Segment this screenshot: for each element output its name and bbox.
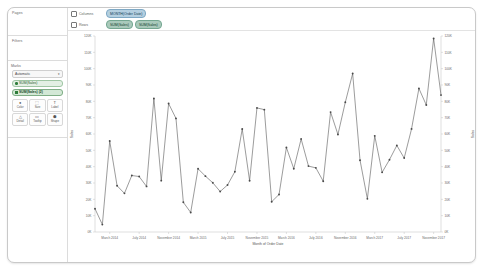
data-point-marker[interactable] bbox=[160, 180, 162, 182]
pages-shelf[interactable]: Pages bbox=[8, 8, 67, 36]
data-point-marker[interactable] bbox=[433, 38, 435, 40]
y-axis-tick-label: 20K bbox=[86, 198, 93, 202]
data-point-marker[interactable] bbox=[168, 103, 170, 105]
data-point-marker[interactable] bbox=[271, 201, 273, 203]
data-point-marker[interactable] bbox=[138, 176, 140, 178]
data-point-marker[interactable] bbox=[263, 109, 265, 111]
x-axis-tick-label: November 2017 bbox=[422, 236, 445, 240]
data-point-marker[interactable] bbox=[175, 117, 177, 119]
data-point-marker[interactable] bbox=[278, 194, 280, 196]
y-axis-tick-label-right: 50K bbox=[445, 149, 452, 153]
y-axis-tick-label-right: 10K bbox=[445, 214, 452, 218]
data-point-marker[interactable] bbox=[389, 159, 391, 161]
data-point-marker[interactable] bbox=[359, 159, 361, 161]
y-axis-tick-label-right: 40K bbox=[445, 165, 452, 169]
data-point-marker[interactable] bbox=[101, 224, 103, 226]
data-point-marker[interactable] bbox=[249, 180, 251, 182]
data-point-marker[interactable] bbox=[219, 191, 221, 193]
chevron-down-icon: ▾ bbox=[58, 72, 60, 76]
rows-label: Rows bbox=[79, 23, 88, 27]
mark-type-dropdown[interactable]: Automatic ▾ bbox=[12, 70, 63, 78]
y-axis-tick-label: 0K bbox=[88, 230, 93, 234]
data-point-marker[interactable] bbox=[182, 201, 184, 203]
data-point-marker[interactable] bbox=[403, 157, 405, 159]
data-point-marker[interactable] bbox=[308, 165, 310, 167]
marks-pill-sum-sales[interactable]: SUM(Sales) bbox=[12, 80, 63, 88]
worksheet-sidebar: Pages Filters Marks Automatic ▾ SUM(Sale… bbox=[8, 8, 68, 262]
rows-shelf[interactable]: Rows SUM(Sales) SUM(Sales) bbox=[68, 19, 475, 30]
marks-pill-sum-sales-2[interactable]: SUM(Sales) (2) bbox=[12, 89, 63, 97]
data-point-marker[interactable] bbox=[344, 101, 346, 103]
y-axis-tick-label: 60K bbox=[86, 132, 93, 136]
series-line-sum-sales bbox=[95, 39, 441, 225]
rows-pill-sum-sales-1[interactable]: SUM(Sales) bbox=[106, 20, 133, 29]
marks-button-label: Size bbox=[35, 105, 41, 109]
marks-button-label: Shape bbox=[51, 119, 59, 123]
data-point-marker[interactable] bbox=[440, 94, 442, 96]
y-axis-tick-label-right: 100K bbox=[445, 67, 453, 71]
data-point-marker[interactable] bbox=[322, 180, 324, 182]
data-point-marker[interactable] bbox=[131, 175, 133, 177]
y-axis-tick-label: 110K bbox=[84, 51, 92, 55]
rows-pill-sum-sales-2[interactable]: SUM(Sales) bbox=[135, 20, 162, 29]
filters-shelf[interactable]: Filters bbox=[8, 36, 67, 61]
data-point-marker[interactable] bbox=[94, 208, 96, 210]
data-point-marker[interactable] bbox=[418, 88, 420, 90]
marks-buttons-grid: ● Color ⬚ Size T Label △ Detail ▭ Tool bbox=[11, 98, 64, 127]
pill-label: SUM(Sales) bbox=[110, 23, 129, 27]
marks-shape-button[interactable]: ⬢ Shape bbox=[47, 113, 63, 126]
data-point-marker[interactable] bbox=[337, 134, 339, 136]
marks-tooltip-button[interactable]: ▭ Tooltip bbox=[29, 113, 45, 126]
data-point-marker[interactable] bbox=[234, 171, 236, 173]
data-point-marker[interactable] bbox=[109, 140, 111, 142]
x-axis-tick-label: March 2014 bbox=[101, 236, 118, 240]
data-point-marker[interactable] bbox=[116, 185, 118, 187]
data-point-marker[interactable] bbox=[190, 212, 192, 214]
data-point-marker[interactable] bbox=[300, 138, 302, 140]
x-axis-tick-label: March 2017 bbox=[366, 236, 383, 240]
x-axis-tick-label: March 2016 bbox=[278, 236, 295, 240]
data-point-marker[interactable] bbox=[315, 167, 317, 169]
y-axis-tick-label: 40K bbox=[86, 165, 93, 169]
data-point-marker[interactable] bbox=[285, 147, 287, 149]
columns-label: Columns bbox=[79, 12, 93, 16]
data-point-marker[interactable] bbox=[227, 184, 229, 186]
worksheet-main: Columns MONTH(Order Date) Rows SUM(Sales… bbox=[68, 8, 475, 262]
data-point-marker[interactable] bbox=[256, 107, 258, 109]
data-point-marker[interactable] bbox=[153, 97, 155, 99]
data-point-marker[interactable] bbox=[374, 135, 376, 137]
data-point-marker[interactable] bbox=[197, 168, 199, 170]
marks-color-button[interactable]: ● Color bbox=[12, 99, 28, 112]
marks-label-button[interactable]: T Label bbox=[47, 99, 63, 112]
measure-dot-icon bbox=[15, 82, 18, 85]
columns-pill-order-date[interactable]: MONTH(Order Date) bbox=[106, 9, 146, 18]
x-axis-tick-label: November 2015 bbox=[246, 236, 269, 240]
data-point-marker[interactable] bbox=[293, 168, 295, 170]
data-point-marker[interactable] bbox=[396, 145, 398, 147]
data-point-marker[interactable] bbox=[330, 111, 332, 113]
data-point-marker[interactable] bbox=[212, 182, 214, 184]
x-axis-title: Month of Order Date bbox=[253, 242, 284, 246]
columns-shelf-label-group: Columns bbox=[71, 11, 103, 17]
marks-card: Marks Automatic ▾ SUM(Sales) SUM(Sales) … bbox=[8, 61, 67, 138]
marks-button-label: Label bbox=[51, 105, 58, 109]
marks-size-button[interactable]: ⬚ Size bbox=[29, 99, 45, 112]
data-point-marker[interactable] bbox=[352, 73, 354, 75]
data-point-marker[interactable] bbox=[411, 128, 413, 130]
data-point-marker[interactable] bbox=[366, 198, 368, 200]
data-point-marker[interactable] bbox=[146, 185, 148, 187]
line-chart-plot: 0K0K10K10K20K20K30K30K40K40K50K50K60K60K… bbox=[68, 31, 475, 262]
pill-label: SUM(Sales) bbox=[139, 23, 158, 27]
data-point-marker[interactable] bbox=[204, 175, 206, 177]
marks-detail-button[interactable]: △ Detail bbox=[12, 113, 28, 126]
data-point-marker[interactable] bbox=[381, 171, 383, 173]
data-point-marker[interactable] bbox=[124, 192, 126, 194]
y-axis-tick-label: 30K bbox=[86, 181, 93, 185]
x-axis-tick-label: July 2016 bbox=[309, 236, 323, 240]
data-point-marker[interactable] bbox=[425, 104, 427, 106]
marks-label: Marks bbox=[11, 64, 64, 68]
data-point-marker[interactable] bbox=[241, 128, 243, 130]
columns-shelf[interactable]: Columns MONTH(Order Date) bbox=[68, 8, 475, 19]
label-icon: T bbox=[54, 101, 56, 105]
y-axis-tick-label-right: 120K bbox=[445, 34, 453, 38]
